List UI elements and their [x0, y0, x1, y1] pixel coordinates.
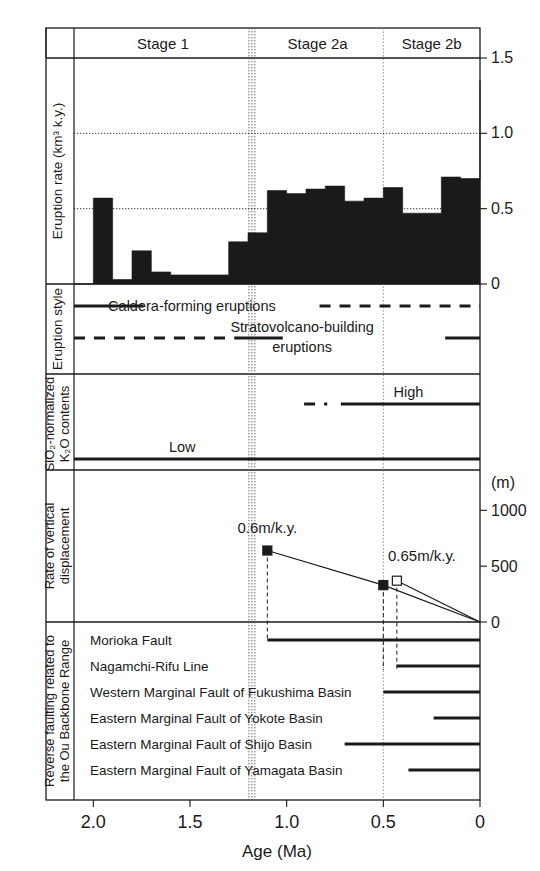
stage-label-2: Stage 2a [288, 35, 349, 52]
eruption-style-axis-label: Eruption style [50, 288, 65, 370]
eruption-rate-panel: 00.51.01.5 [74, 49, 513, 292]
stage-label-3: Stage 2b [402, 35, 462, 52]
x-axis: 2.01.51.00.50Age (Ma) [81, 800, 485, 861]
eruption-style-panel: Caldera-forming eruptionsStratovolcano-b… [74, 298, 480, 355]
vertical-displacement-marker-0-0 [263, 546, 272, 555]
fault-axis-label-line2: the Ou Backbone Range [57, 640, 72, 782]
x-axis-tick-label-1: 1.5 [177, 812, 202, 832]
eruption-rate-tick-label-3: 1.5 [491, 49, 513, 66]
vertdisp-axis-label-line2: displacement [57, 507, 72, 584]
x-axis-tick-label-4: 0 [475, 812, 485, 832]
svg-text:Eruption style: Eruption style [50, 288, 65, 370]
vertical-displacement-tick-label-2: 1000 [491, 502, 527, 519]
x-axis-title: Age (Ma) [242, 842, 312, 861]
x-axis-tick-label-3: 0.5 [371, 812, 396, 832]
fault-label-4: Eastern Marginal Fault of Shijo Basin [90, 737, 312, 752]
svg-text:Rate of vertical: Rate of vertical [42, 503, 57, 590]
stage-label-1: Stage 1 [137, 35, 189, 52]
fault-label-1: Nagamchi-Rifu Line [90, 659, 209, 674]
eruption-rate-tick-label-1: 0.5 [491, 200, 513, 217]
fault-label-2: Western Marginal Fault of Fukushima Basi… [90, 685, 352, 700]
fault-axis-label-line1: Reverse faulting related to [42, 635, 57, 787]
vertical-displacement-tick-label-0: 0 [491, 614, 500, 631]
svg-text:Reverse faulting related to: Reverse faulting related to [42, 635, 57, 787]
figure-root: Stage 1Stage 2aStage 2bEruption rate (km… [0, 0, 540, 871]
caldera-forming-eruptions-label: Caldera-forming eruptions [108, 298, 276, 314]
stratigraphy-multipanel-chart: Stage 1Stage 2aStage 2bEruption rate (km… [0, 0, 540, 871]
vertical-displacement-marker-1-0 [392, 576, 401, 585]
eruption-rate-axis-label: Eruption rate (km³ k.y.) [50, 103, 65, 239]
eruption-rate-tick-label-2: 1.0 [491, 124, 513, 141]
svg-text:K₂O contents: K₂O contents [57, 385, 72, 462]
svg-text:SiO₂-normalized: SiO₂-normalized [42, 377, 57, 472]
vertical-displacement-tick-label-1: 500 [491, 558, 518, 575]
sio2-low-label: Low [169, 439, 196, 455]
reverse-faulting-panel: Morioka FaultNagamchi-Rifu LineWestern M… [90, 633, 480, 778]
x-axis-tick-label-2: 1.0 [274, 812, 299, 832]
vertical-displacement-unit-label: (m) [491, 474, 515, 491]
vertical-displacement-marker-0-1 [379, 581, 388, 590]
svg-text:displacement: displacement [57, 507, 72, 584]
fault-label-5: Eastern Marginal Fault of Yamagata Basin [90, 763, 342, 778]
svg-text:the Ou Backbone Range: the Ou Backbone Range [57, 640, 72, 782]
sio2-axis-label-line1: SiO₂-normalized [42, 377, 57, 472]
rate-annotation-0-65: 0.65m/k.y. [388, 547, 456, 564]
x-axis-tick-label-0: 2.0 [81, 812, 106, 832]
svg-text:Eruption rate (km³ k.y.): Eruption rate (km³ k.y.) [50, 103, 65, 239]
fault-label-0: Morioka Fault [90, 633, 172, 648]
eruption-rate-tick-label-0: 0 [491, 275, 500, 292]
sio2-high-label: High [394, 384, 424, 400]
stratovolcano-building-label-line2: eruptions [272, 339, 332, 355]
fault-label-3: Eastern Marginal Fault of Yokote Basin [90, 711, 323, 726]
stratovolcano-building-label-line1: Stratovolcano-building [230, 319, 373, 335]
vertical-displacement-series-1 [397, 581, 480, 622]
stage-header: Stage 1Stage 2aStage 2b [137, 35, 462, 52]
sio2-axis-label-line2: K₂O contents [57, 385, 72, 462]
rate-annotation-0-6: 0.6m/k.y. [237, 519, 297, 536]
sio2-k2o-panel: HighLow [74, 384, 480, 459]
eruption-rate-bars [74, 81, 480, 284]
vertdisp-axis-label-line1: Rate of vertical [42, 503, 57, 590]
